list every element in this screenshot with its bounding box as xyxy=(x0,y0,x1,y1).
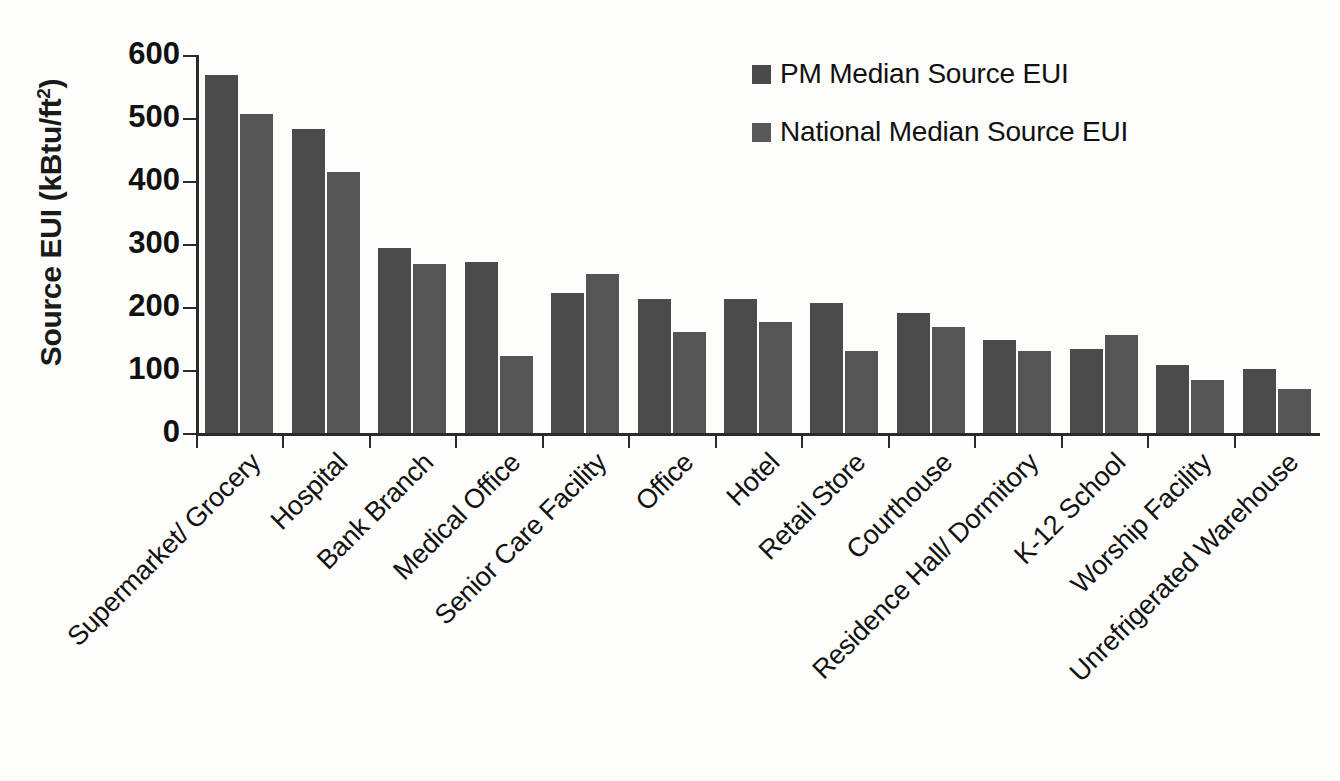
x-tick-7 xyxy=(801,435,803,448)
x-tick-3 xyxy=(455,435,457,448)
chart-legend: PM Median Source EUI National Median Sou… xyxy=(752,58,1128,174)
x-label-text: Worship Facility xyxy=(1065,447,1218,600)
bar-pm xyxy=(551,293,584,433)
x-tick-4 xyxy=(542,435,544,448)
bar-national xyxy=(845,351,878,433)
bar-pm xyxy=(378,248,411,433)
bar-pm xyxy=(897,313,930,433)
y-axis-title-exponent: 2 xyxy=(33,88,54,98)
x-label-text: Hotel xyxy=(720,447,785,512)
legend-label-pm: PM Median Source EUI xyxy=(780,58,1069,90)
bar-national xyxy=(240,114,273,433)
x-label-text: Retail Store xyxy=(753,447,872,566)
y-tick-label-0: 0 xyxy=(163,414,180,450)
x-label-text: Supermarket/ Grocery xyxy=(62,447,267,652)
y-tick-label-600: 600 xyxy=(128,36,180,72)
y-tick-300 xyxy=(183,244,196,246)
y-tick-0 xyxy=(183,433,196,435)
bar-national xyxy=(673,332,706,433)
bar-pm xyxy=(724,299,757,433)
y-tick-400 xyxy=(183,181,196,183)
y-tick-600 xyxy=(183,55,196,57)
bar-national xyxy=(1278,389,1311,433)
x-tick-2 xyxy=(369,435,371,448)
x-tick-10 xyxy=(1061,435,1063,448)
x-axis-line xyxy=(196,433,1320,436)
bar-national xyxy=(1018,351,1051,433)
bar-national xyxy=(500,356,533,433)
x-tick-0 xyxy=(196,435,198,448)
x-label-text: Bank Branch xyxy=(311,447,440,576)
legend-swatch-icon-pm xyxy=(752,65,771,84)
bar-group xyxy=(1234,55,1320,433)
bar-pm xyxy=(292,129,325,433)
bar-pm xyxy=(465,262,498,433)
bar-national xyxy=(932,327,965,433)
bar-pm xyxy=(1243,369,1276,433)
y-tick-200 xyxy=(183,307,196,309)
legend-label-national: National Median Source EUI xyxy=(780,116,1128,148)
x-label-text: Office xyxy=(629,447,699,517)
bar-pm xyxy=(1070,349,1103,433)
bar-group xyxy=(542,55,628,433)
legend-swatch-icon-national xyxy=(752,123,771,142)
x-tick-5 xyxy=(628,435,630,448)
y-axis-title-main: Source EUI (kBtu/ft xyxy=(34,99,67,367)
y-tick-label-100: 100 xyxy=(128,351,180,387)
bar-pm xyxy=(205,75,238,433)
x-label-text: Hospital xyxy=(264,447,353,536)
x-tick-1 xyxy=(282,435,284,448)
x-tick-11 xyxy=(1147,435,1149,448)
bar-national xyxy=(327,172,360,433)
bar-national xyxy=(759,322,792,434)
bar-group xyxy=(369,55,455,433)
x-label-text: Courthouse xyxy=(840,447,959,566)
bar-national xyxy=(413,264,446,433)
y-tick-label-400: 400 xyxy=(128,162,180,198)
bar-group xyxy=(628,55,714,433)
y-axis-title: Source EUI (kBtu/ft2) xyxy=(33,58,68,388)
legend-item-national-median: National Median Source EUI xyxy=(752,116,1128,148)
x-tick-9 xyxy=(974,435,976,448)
chart-figure: Source EUI (kBtu/ft2) 600500400300200100… xyxy=(0,0,1340,781)
bar-group xyxy=(1147,55,1233,433)
x-label-text: K-12 School xyxy=(1008,447,1132,571)
x-tick-6 xyxy=(715,435,717,448)
x-label-text: Residence Hall/ Dormitory xyxy=(807,447,1045,685)
bar-group xyxy=(455,55,541,433)
y-tick-label-300: 300 xyxy=(128,225,180,261)
x-label-text: Medical Office xyxy=(387,447,527,587)
bar-group xyxy=(196,55,282,433)
legend-item-pm-median: PM Median Source EUI xyxy=(752,58,1128,90)
x-tick-8 xyxy=(888,435,890,448)
bar-group xyxy=(282,55,368,433)
x-tick-12 xyxy=(1234,435,1236,448)
y-tick-label-500: 500 xyxy=(128,99,180,135)
bar-pm xyxy=(638,299,671,433)
x-label-text: Unrefrigerated Warehouse xyxy=(1064,447,1305,688)
bar-pm xyxy=(810,303,843,433)
bar-national xyxy=(1105,335,1138,433)
bar-pm xyxy=(1156,365,1189,433)
x-label-text: Senior Care Facility xyxy=(429,447,613,631)
y-axis-title-close: ) xyxy=(34,79,67,89)
y-tick-100 xyxy=(183,370,196,372)
bar-pm xyxy=(983,340,1016,433)
y-tick-label-200: 200 xyxy=(128,288,180,324)
bar-national xyxy=(586,274,619,433)
y-tick-500 xyxy=(183,118,196,120)
bar-national xyxy=(1191,380,1224,433)
